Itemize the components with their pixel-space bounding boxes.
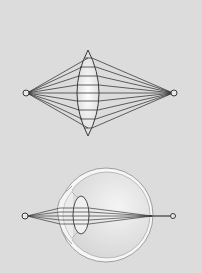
eye-panel xyxy=(22,168,176,262)
object-point-icon xyxy=(23,90,29,96)
image-point-icon xyxy=(171,90,177,96)
eye-image-point-icon xyxy=(171,214,176,219)
transmitted-rays xyxy=(92,58,173,128)
eye-incident-rays xyxy=(27,208,60,224)
lens-panel xyxy=(23,50,177,136)
diagram-canvas xyxy=(0,0,202,273)
crystalline-lens xyxy=(73,196,89,234)
eye-object-point-icon xyxy=(22,213,28,219)
optics-diagram xyxy=(0,0,202,273)
